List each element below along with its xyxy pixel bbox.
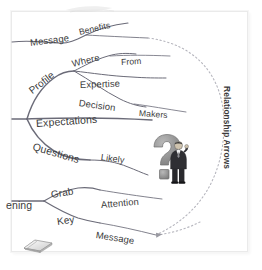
mind-map-screenshot: MessageBenefitsProfileWhereFromExpertise… [0,0,262,270]
mindmap-label-opening[interactable]: ening [6,199,32,211]
mindmap-label-expertise[interactable]: Expertise [80,78,120,90]
open-book-icon [22,236,54,254]
businessman-figure-icon [167,140,189,184]
mindmap-label-from[interactable]: From [121,56,142,67]
relationship-arrow-head [157,222,200,235]
mindmap-label-makers[interactable]: Makers [139,108,168,120]
top-clipped-object [66,6,114,12]
relationship-arrows-annotation: Relationship Arrows [222,86,232,169]
